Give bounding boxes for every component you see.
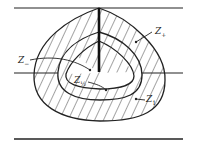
label-z-minus: Z−	[18, 56, 29, 67]
label-z-plus: Z+	[155, 27, 166, 38]
label-z-half: Z½	[74, 76, 86, 87]
label-z-one: Z1	[146, 95, 156, 106]
diagram-canvas	[0, 0, 197, 146]
